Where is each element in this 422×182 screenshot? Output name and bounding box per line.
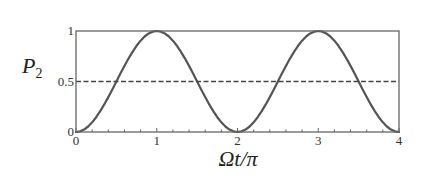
x-axis-label: Ωt/π <box>218 146 258 171</box>
y-tick-label: 1 <box>68 23 75 38</box>
x-tick-label: 1 <box>154 133 161 148</box>
y-axis-label-sub: 2 <box>35 66 42 81</box>
x-tick-label: 4 <box>396 133 403 148</box>
y-axis-tick-labels: 00.51 <box>58 23 74 139</box>
plot-area <box>76 31 399 132</box>
x-tick-label: 3 <box>315 133 322 148</box>
y-tick-label: 0 <box>68 124 75 139</box>
y-axis-label: P2 <box>21 53 42 81</box>
y-axis-label-main: P <box>21 53 35 78</box>
y-tick-label: 0.5 <box>58 74 74 89</box>
chart: 01234 00.51 P2 Ωt/π <box>0 0 422 182</box>
x-axis-ticks <box>76 128 399 132</box>
